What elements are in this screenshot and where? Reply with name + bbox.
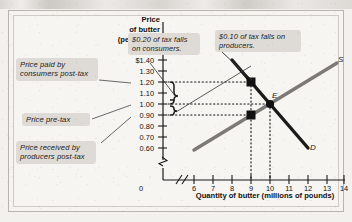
y-tick-label-080: 0.80 xyxy=(118,122,154,131)
y-tick-label-070: 0.70 xyxy=(118,133,154,142)
producer-price-marker xyxy=(247,111,256,120)
equilibrium-point-marker xyxy=(266,100,274,108)
supply-curve xyxy=(194,63,337,150)
y-tick-label-100: 1.00 xyxy=(118,100,154,109)
callout-tax-falls-on-consumers: $0.20 of tax falls on consumers. xyxy=(128,33,200,55)
y-tick-label-120: 1.20 xyxy=(118,78,154,87)
y-tick-label-140: $1.40 xyxy=(118,56,154,65)
callout-producer-price-post-tax: Price received by producers post-tax xyxy=(16,141,96,164)
callout-price-pre-tax: Price pre-tax xyxy=(22,113,90,126)
y-tick-label-130: 1.30 xyxy=(118,67,154,76)
demand-curve-label: D xyxy=(310,143,316,152)
tax-producers-leader-line xyxy=(222,52,252,80)
origin-label: 0 xyxy=(134,184,148,193)
equilibrium-point-label: E xyxy=(272,91,277,100)
callout-tax-falls-on-producers: $0.10 of tax falls on producers. xyxy=(215,30,301,52)
tax-consumers-leader-line xyxy=(176,66,251,112)
supply-curve-label: S xyxy=(338,55,343,64)
brace-producer-share xyxy=(170,106,177,115)
guide-lines xyxy=(168,82,270,178)
y-tick-label-060: 0.60 xyxy=(118,144,154,153)
y-axis-title-line1: Price xyxy=(90,15,160,25)
figure-canvas: Price of butter (per pound) $1.40 1.30 1… xyxy=(0,0,352,222)
y-tick-label-110: 1.10 xyxy=(118,89,154,98)
y-axis-break-icon xyxy=(159,157,167,166)
callout-consumer-price-post-tax: Price paid by consumers post-tax xyxy=(16,58,98,81)
x-axis-title: Quantity of butter (millions of pounds) xyxy=(180,191,350,200)
y-tick-label-090: 0.90 xyxy=(118,111,154,120)
